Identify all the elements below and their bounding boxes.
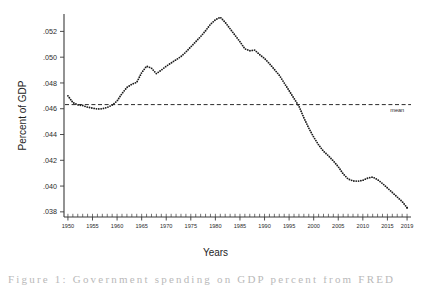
series-point bbox=[281, 78, 283, 80]
y-tick-label: .046 bbox=[43, 104, 57, 113]
x-axis: 1950195519601965197019751980198519901995… bbox=[62, 214, 414, 229]
series-point bbox=[330, 158, 332, 160]
series-point bbox=[307, 125, 309, 127]
series-point bbox=[395, 195, 397, 197]
series-point bbox=[190, 45, 192, 47]
series-point bbox=[137, 78, 139, 80]
series-point bbox=[261, 55, 263, 57]
series-point bbox=[82, 105, 84, 107]
series-point bbox=[68, 97, 70, 99]
y-tick-label: .038 bbox=[43, 207, 57, 216]
mean-reference-line: mean bbox=[65, 105, 411, 114]
series-point bbox=[143, 68, 145, 70]
series-point bbox=[255, 51, 257, 53]
x-tick-label: 1950 bbox=[62, 223, 74, 229]
series-point bbox=[360, 180, 362, 182]
series-point bbox=[385, 185, 387, 187]
series-point bbox=[240, 43, 242, 45]
series-point bbox=[152, 69, 154, 71]
y-axis-title: Percent of GDP bbox=[17, 80, 28, 150]
series-point bbox=[235, 35, 237, 37]
x-tick-label: 1995 bbox=[283, 223, 295, 229]
series-point bbox=[163, 67, 165, 69]
series-point bbox=[391, 192, 393, 194]
series-point bbox=[286, 86, 288, 88]
series-point bbox=[230, 30, 232, 32]
series-point bbox=[340, 170, 342, 172]
series-point bbox=[355, 180, 357, 182]
series-point bbox=[142, 70, 144, 72]
series-point bbox=[400, 200, 402, 202]
series-point bbox=[303, 117, 305, 119]
series-point bbox=[257, 52, 259, 54]
series-point bbox=[402, 201, 404, 203]
series-point bbox=[232, 31, 234, 33]
series-point bbox=[218, 17, 220, 19]
series-point bbox=[115, 101, 117, 103]
series-point bbox=[141, 72, 143, 74]
series-point bbox=[332, 159, 334, 161]
caption-fragment: Figure 1: Government spending on GDP per… bbox=[8, 276, 413, 285]
x-tick-label: 2000 bbox=[307, 223, 319, 229]
series-point bbox=[306, 123, 308, 125]
x-tick-label: 1965 bbox=[135, 223, 147, 229]
series-point bbox=[388, 188, 390, 190]
series-point bbox=[247, 49, 249, 51]
series-point bbox=[70, 99, 72, 101]
series-point bbox=[251, 49, 253, 51]
series-point bbox=[120, 94, 122, 96]
series-point bbox=[295, 100, 297, 102]
x-tick-label: 1970 bbox=[160, 223, 172, 229]
series-point bbox=[113, 103, 115, 105]
series-point bbox=[320, 147, 322, 149]
series-point bbox=[282, 80, 284, 82]
series-point bbox=[373, 177, 375, 179]
series-point bbox=[89, 107, 91, 109]
series-point bbox=[225, 22, 227, 24]
series-point bbox=[290, 92, 292, 94]
series-point bbox=[157, 71, 159, 73]
series-point bbox=[242, 45, 244, 47]
series-point bbox=[239, 41, 241, 43]
series-point bbox=[254, 49, 256, 51]
series-point bbox=[109, 105, 111, 107]
series-point bbox=[161, 69, 163, 71]
series-point bbox=[182, 54, 184, 56]
series-point bbox=[233, 33, 235, 35]
series-point bbox=[349, 179, 351, 181]
series-point bbox=[117, 100, 119, 102]
series-point bbox=[154, 71, 156, 73]
series-point bbox=[319, 146, 321, 148]
series-point bbox=[130, 84, 132, 86]
series-point bbox=[175, 59, 177, 61]
series-point bbox=[310, 132, 312, 134]
series-point bbox=[280, 76, 282, 78]
series-point bbox=[216, 18, 218, 20]
series-point bbox=[77, 104, 79, 106]
series-point bbox=[155, 73, 157, 75]
series-point bbox=[311, 134, 313, 136]
series-point bbox=[271, 65, 273, 67]
series-point bbox=[338, 166, 340, 168]
series-point bbox=[347, 177, 349, 179]
series-point bbox=[390, 190, 392, 192]
x-tick-label: 1990 bbox=[258, 223, 270, 229]
series-point bbox=[342, 172, 344, 174]
series-point bbox=[220, 17, 222, 19]
series-point bbox=[238, 39, 240, 41]
series-point bbox=[245, 48, 247, 50]
series-point bbox=[194, 42, 196, 44]
series-point bbox=[403, 203, 405, 205]
series-point bbox=[173, 61, 175, 63]
series-point bbox=[362, 179, 364, 181]
x-tick-label: 1975 bbox=[185, 223, 197, 229]
series-point bbox=[111, 104, 113, 106]
series-point bbox=[84, 105, 86, 107]
mean-line-label: mean bbox=[390, 107, 404, 113]
series-point bbox=[186, 51, 188, 53]
series-point bbox=[272, 67, 274, 69]
x-tick-label: 2010 bbox=[357, 223, 369, 229]
series-point bbox=[314, 138, 316, 140]
caption-strip: Figure 1: Government spending on GDP per… bbox=[0, 276, 421, 285]
series-point bbox=[236, 37, 238, 39]
